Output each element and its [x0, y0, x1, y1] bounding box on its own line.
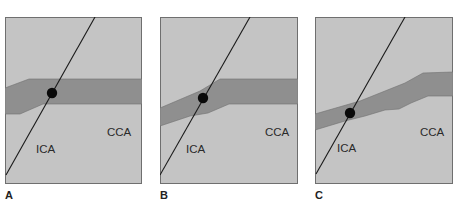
- panel-a: ICA CCA: [5, 17, 142, 184]
- panel-b: ICA CCA: [160, 17, 298, 184]
- panel-a-diagram: ICA CCA: [5, 17, 142, 184]
- panel-b-diagram: ICA CCA: [160, 17, 298, 184]
- panel-a-letter: A: [5, 189, 13, 201]
- panel-a-label-ica: ICA: [36, 143, 56, 155]
- panel-b-label-cca: CCA: [265, 126, 290, 138]
- panel-c-sample-dot: [345, 108, 355, 118]
- panel-a-sample-dot: [47, 88, 57, 98]
- panel-c: ICA CCA: [315, 17, 453, 184]
- panel-c-letter: C: [315, 189, 323, 201]
- panel-b-label-ica: ICA: [186, 143, 206, 155]
- panel-b-sample-dot: [198, 93, 208, 103]
- panel-b-letter: B: [160, 189, 168, 201]
- panel-a-label-cca: CCA: [107, 126, 132, 138]
- panel-c-label-cca: CCA: [420, 126, 445, 138]
- panel-c-label-ica: ICA: [337, 142, 357, 154]
- panel-c-diagram: ICA CCA: [315, 17, 453, 184]
